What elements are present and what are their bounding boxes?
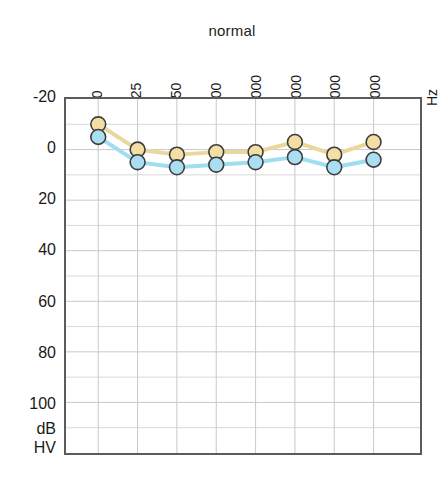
plot-svg	[66, 99, 420, 453]
y-axis-unit-line: HV	[4, 438, 56, 457]
data-point-marker	[327, 160, 342, 175]
chart-title: normal	[0, 22, 436, 39]
data-point-marker	[91, 130, 106, 145]
data-point-marker	[288, 135, 303, 150]
data-point-marker	[130, 155, 145, 170]
y-tick-label-0: 0	[4, 140, 56, 156]
x-axis-unit-label: Hz	[425, 89, 439, 106]
y-axis-unit-line: dB	[4, 419, 56, 438]
data-point-marker	[366, 135, 381, 150]
plot-area	[64, 97, 422, 455]
y-tick-label-60: 60	[4, 294, 56, 310]
y-tick-label-40: 40	[4, 242, 56, 258]
y-axis-tick-labels: dBHV -20020406080100	[0, 0, 56, 495]
data-point-marker	[366, 152, 381, 167]
data-series-layer	[91, 117, 381, 175]
y-axis-unit-label: dBHV	[4, 419, 56, 457]
y-tick-label-20: 20	[4, 191, 56, 207]
data-point-marker	[170, 160, 185, 175]
y-tick-label-80: 80	[4, 345, 56, 361]
y-tick-label--20: -20	[4, 89, 56, 105]
chart-title-text: normal	[208, 22, 255, 39]
y-tick-label-100: 100	[4, 396, 56, 412]
data-point-marker	[288, 150, 303, 165]
data-point-marker	[248, 155, 263, 170]
data-point-marker	[209, 157, 224, 172]
